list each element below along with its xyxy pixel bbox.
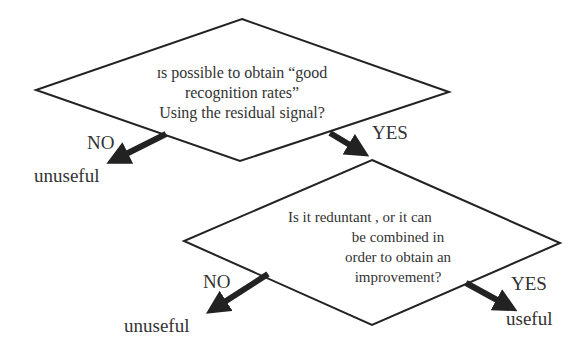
decision-1-line-3: Using the residual signal? [150,103,334,123]
decision-2-no-outcome: unuseful [124,316,189,335]
decision-2-yes-outcome: useful [506,309,552,328]
decision-2-yes-arrow [466,283,508,306]
decision-2-yes-label: YES [511,274,547,293]
decision-2-line-4: improvement? [288,267,458,287]
decision-2-no-label: NO [203,272,230,291]
decision-2-question: Is it reduntant , or it can be combined … [288,207,458,287]
decision-2-line-1: Is it reduntant , or it can [288,207,458,227]
decision-1-line-1: ɪs possible to obtain “good [150,63,334,83]
decision-1-yes-arrow [330,133,360,151]
decision-2-line-2: be combined in [288,227,458,247]
decision-1-no-outcome: unuseful [34,166,99,185]
decision-1-line-2: recognition rates” [150,83,334,103]
decision-1-no-label: NO [87,133,114,152]
decision-1-question: ɪs possible to obtain “good recognition … [150,63,334,123]
decision-1-no-arrow [116,134,166,159]
decision-1-yes-label: YES [372,123,408,142]
decision-2-line-3: order to obtain an [288,247,458,267]
